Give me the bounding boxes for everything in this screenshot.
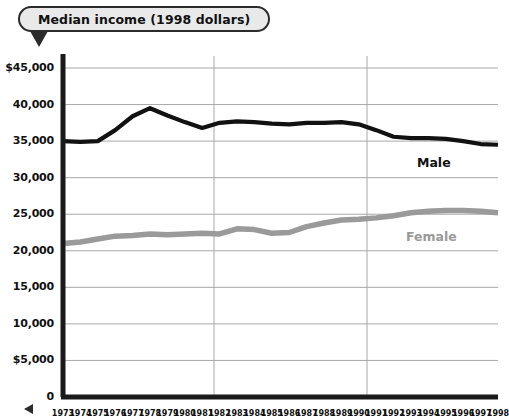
gridlines [63, 68, 498, 360]
series-label-male: Male [417, 155, 451, 170]
series-label-female: Female [406, 229, 457, 244]
series-line-male [63, 108, 498, 145]
series-lines [63, 108, 498, 243]
